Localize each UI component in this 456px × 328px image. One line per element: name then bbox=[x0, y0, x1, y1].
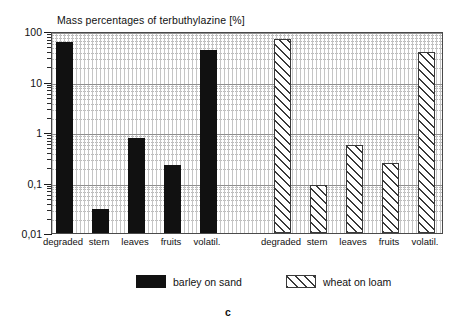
gridline-minor bbox=[52, 35, 442, 36]
bar bbox=[92, 209, 109, 233]
gridline-minor bbox=[52, 142, 442, 143]
gridline-minor bbox=[52, 149, 442, 150]
x-axis-tick-label: degraded bbox=[261, 236, 301, 247]
gridline-minor bbox=[52, 145, 442, 146]
gridline-minor bbox=[52, 139, 442, 140]
bar bbox=[418, 52, 435, 233]
x-axis-tick-label: volatil. bbox=[412, 236, 439, 247]
gridline-minor bbox=[52, 154, 442, 155]
legend-swatch-diagonal-hatch bbox=[286, 275, 316, 288]
gridline-minor bbox=[52, 110, 442, 111]
gridline-minor bbox=[52, 48, 442, 49]
gridline-minor bbox=[52, 91, 442, 92]
x-axis-tick-label: stem bbox=[89, 236, 110, 247]
bar bbox=[164, 165, 181, 233]
legend-entry: wheat on loam bbox=[286, 275, 391, 288]
gridline-minor bbox=[52, 119, 442, 120]
legend-label: barley on sand bbox=[173, 276, 242, 288]
x-axis-tick-labels: degradedstemleavesfruitsvolatil.degraded… bbox=[51, 236, 443, 252]
gridline-minor bbox=[52, 59, 442, 60]
figure-caption: c bbox=[0, 306, 456, 318]
legend-label: wheat on loam bbox=[323, 276, 391, 288]
bar bbox=[346, 145, 363, 233]
gridline-minor bbox=[52, 136, 442, 137]
gridline-minor bbox=[52, 44, 442, 45]
y-axis-tick-label: 100 bbox=[24, 26, 42, 38]
x-axis-tick-label: fruits bbox=[161, 236, 182, 247]
gridline-minor bbox=[52, 160, 442, 161]
gridline-major bbox=[52, 84, 442, 85]
gridline-major bbox=[52, 134, 442, 135]
gridline-minor bbox=[52, 88, 442, 89]
legend-entry: barley on sand bbox=[136, 275, 242, 288]
gridline-minor bbox=[52, 53, 442, 54]
chart-legend: barley on sandwheat on loam bbox=[51, 275, 443, 295]
figure-panel-c: Mass percentages of terbuthylazine [%] 1… bbox=[0, 0, 456, 328]
gridline-minor bbox=[52, 95, 442, 96]
bar bbox=[56, 42, 73, 233]
y-axis-tick-label: 1 bbox=[36, 127, 42, 139]
y-axis-tick-label: 10 bbox=[30, 77, 42, 89]
gridline-minor bbox=[52, 104, 442, 105]
x-axis-tick-label: leaves bbox=[339, 236, 366, 247]
chart-title: Mass percentages of terbuthylazine [%] bbox=[57, 14, 245, 26]
y-axis-tick-label: 0,01 bbox=[22, 228, 42, 240]
gridline-minor bbox=[52, 68, 442, 69]
x-axis-tick-label: leaves bbox=[121, 236, 148, 247]
gridline-minor bbox=[52, 38, 442, 39]
bar bbox=[274, 39, 291, 233]
x-axis-tick-label: volatil. bbox=[194, 236, 221, 247]
legend-swatch-solid bbox=[136, 275, 166, 288]
gridline-minor bbox=[52, 99, 442, 100]
y-axis-tick-labels: 1001010,10,01 bbox=[0, 32, 48, 234]
gridline-minor bbox=[52, 86, 442, 87]
y-axis-tick-label: 0,1 bbox=[27, 178, 42, 190]
bar bbox=[382, 163, 399, 233]
y-tick-major bbox=[44, 234, 52, 235]
gridline-minor bbox=[52, 41, 442, 42]
bar bbox=[128, 138, 145, 233]
x-axis-tick-label: fruits bbox=[379, 236, 400, 247]
bar bbox=[310, 185, 327, 233]
bar bbox=[200, 50, 217, 233]
x-axis-tick-label: stem bbox=[307, 236, 328, 247]
plot-area bbox=[51, 32, 443, 234]
gridline-major bbox=[52, 33, 442, 34]
x-axis-tick-label: degraded bbox=[43, 236, 83, 247]
